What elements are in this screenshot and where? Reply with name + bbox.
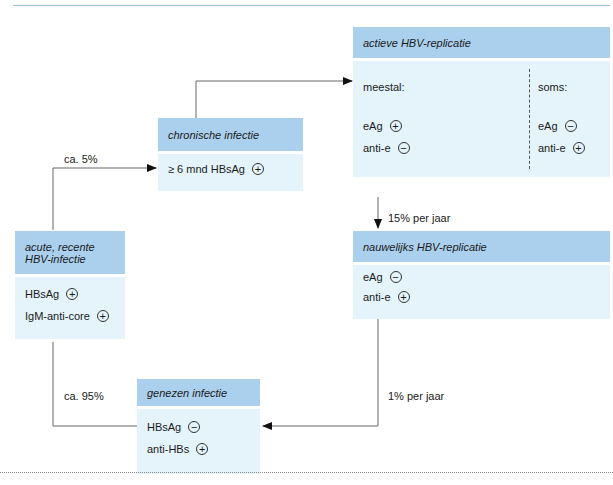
node-healed-infection: genezen infectie HBsAg− anti-HBs+ <box>137 379 260 474</box>
marker-row: anti-HBs+ <box>137 438 260 460</box>
marker-row: ≥ 6 mnd HBsAg+ <box>158 158 303 180</box>
edge-acute-to-chronic <box>53 168 156 230</box>
plus-icon: + <box>252 163 264 175</box>
node-title: acute, recente HBV-infectie <box>15 231 125 274</box>
plus-icon: + <box>390 120 402 132</box>
plus-icon: + <box>196 443 208 455</box>
plus-icon: + <box>573 142 585 154</box>
plus-icon: + <box>398 291 410 303</box>
minus-icon: − <box>565 120 577 132</box>
edge-label-95pct: ca. 95% <box>64 390 104 402</box>
edge-label-1pct: 1% per jaar <box>388 390 444 402</box>
edge-low-to-healed <box>263 318 378 426</box>
marker-row: eAg− <box>353 267 610 287</box>
node-title: genezen infectie <box>137 379 260 406</box>
edge-chronic-to-active <box>196 81 352 118</box>
node-title: chronische infectie <box>158 118 303 151</box>
plus-icon: + <box>97 310 109 322</box>
marker-row: eAg+ <box>353 115 410 137</box>
bottom-dotted-rule <box>0 472 613 473</box>
marker-row: IgM-anti-core+ <box>15 305 125 327</box>
marker-row: HBsAg− <box>137 416 260 438</box>
node-chronic-infection: chronische infectie ≥ 6 mnd HBsAg+ <box>158 118 303 191</box>
node-acute-infection: acute, recente HBV-infectie HBsAg+ IgM-a… <box>15 231 125 339</box>
marker-row: anti-e+ <box>353 287 610 307</box>
marker-row: anti-e− <box>353 137 410 159</box>
heading-mostly: meestal: <box>363 81 405 93</box>
node-active-replication: actieve HBV-replicatie meestal: soms: eA… <box>353 27 610 177</box>
marker-row: eAg− <box>528 115 585 137</box>
minus-icon: − <box>188 421 200 433</box>
node-title: nauwelijks HBV-replicatie <box>353 231 610 262</box>
node-title: actieve HBV-replicatie <box>353 27 610 58</box>
edge-label-15pct: 15% per jaar <box>388 212 450 224</box>
plus-icon: + <box>66 288 78 300</box>
marker-row: HBsAg+ <box>15 283 125 305</box>
edge-label-5pct: ca. 5% <box>64 153 98 165</box>
minus-icon: − <box>390 271 402 283</box>
heading-sometimes: soms: <box>538 81 567 93</box>
node-low-replication: nauwelijks HBV-replicatie eAg− anti-e+ <box>353 231 610 319</box>
minus-icon: − <box>398 142 410 154</box>
marker-row: anti-e+ <box>528 137 585 159</box>
